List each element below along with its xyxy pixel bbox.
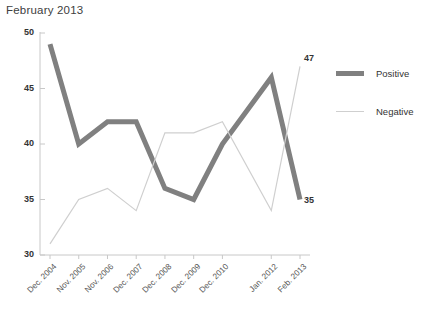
legend-swatch-negative [336,111,364,112]
legend-item-negative[interactable]: Negative [336,106,414,117]
legend-label-negative: Negative [376,106,414,117]
legend-label-positive: Positive [376,68,409,79]
legend-swatch-positive [336,71,364,76]
negative-end-value-label: 47 [304,53,314,63]
y-axis-tick-label: 30 [12,249,34,259]
y-axis-tick-label: 35 [12,194,34,204]
y-axis-tick-label: 50 [12,27,34,37]
legend-item-positive[interactable]: Positive [336,68,409,79]
positive-end-value-label: 35 [304,195,314,205]
y-axis-tick-label: 45 [12,83,34,93]
y-axis-tick-label: 40 [12,138,34,148]
series-lines [50,44,300,244]
chart-container: February 2013 3035404550 Dec. 2004Nov. 2… [0,0,431,318]
series-line-positive [50,44,300,199]
